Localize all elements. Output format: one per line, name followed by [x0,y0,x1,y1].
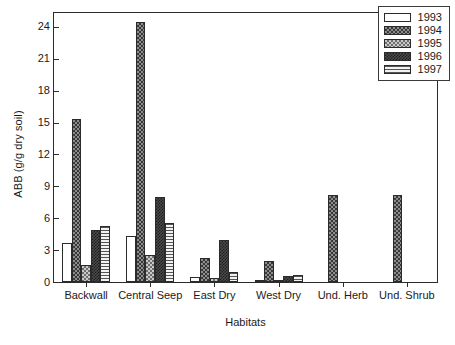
x-axis-tick-label: East Dry [193,289,235,301]
bar-und-shrub-1994 [393,195,403,282]
legend-swatch-1994 [384,26,411,35]
bar-central-seep-1995 [145,255,155,282]
bar-east-dry-1994 [200,258,210,282]
x-axis-tick-label: Central Seep [118,289,182,301]
y-axis-tick-mark [54,123,59,124]
bar-und-herb-1994 [328,195,338,282]
x-axis-tick-mark [343,282,344,287]
y-axis-tick-mark [54,27,59,28]
legend-item-1996: 1996 [384,50,442,63]
legend-swatch-1996 [384,52,411,61]
y-axis-tick-label: 9 [44,181,54,192]
legend-swatch-1993 [384,13,411,22]
legend-label-1995: 1995 [418,38,442,49]
bar-chart-figure: ABB (g/g dry soil) 03691215182124 Backwa… [0,0,455,345]
bar-west-dry-1996 [283,276,293,282]
bar-west-dry-1993 [255,280,265,282]
legend-label-1994: 1994 [418,25,442,36]
x-axis-tick-mark [86,282,87,287]
bar-west-dry-1995 [274,280,284,282]
bar-central-seep-1997 [165,223,175,283]
legend-item-1994: 1994 [384,24,442,37]
y-axis-title: ABB (g/g dry soil) [12,44,24,264]
y-axis-tick-label: 6 [44,213,54,224]
y-axis-tick-mark [54,218,59,219]
bar-central-seep-1996 [155,197,165,282]
legend-label-1996: 1996 [418,51,442,62]
legend-item-1993: 1993 [384,11,442,24]
bar-west-dry-1997 [293,275,303,282]
bar-west-dry-1994 [264,261,274,282]
legend-swatch-1995 [384,39,411,48]
legend-label-1997: 1997 [418,64,442,75]
y-axis-tick-label: 0 [44,277,54,288]
y-axis-tick-label: 12 [38,149,54,160]
legend-swatch-1997 [384,65,411,74]
y-axis-tick-label: 21 [38,53,54,64]
x-axis-tick-label: Und. Shrub [379,289,435,301]
y-axis-tick-mark [54,59,59,60]
bar-backwall-1996 [91,230,101,282]
bar-backwall-1994 [72,119,82,282]
legend-item-1995: 1995 [384,37,442,50]
x-axis-tick-label: Und. Herb [318,289,368,301]
y-axis-tick-mark [54,186,59,187]
y-axis-tick-mark [54,250,59,251]
bar-east-dry-1995 [210,278,220,282]
legend-label-1993: 1993 [418,12,442,23]
y-axis-tick-mark [54,91,59,92]
x-axis-title: Habitats [53,316,438,328]
y-axis-tick-mark [54,282,59,283]
bar-backwall-1993 [62,243,72,282]
chart-legend: 19931994199519961997 [378,6,450,81]
bar-east-dry-1996 [219,240,229,283]
y-axis-tick-label: 15 [38,117,54,128]
x-axis-tick-mark [407,282,408,287]
x-axis-tick-mark [150,282,151,287]
x-axis-tick-label: Backwall [64,289,107,301]
x-axis-tick-label: West Dry [256,289,301,301]
legend-item-1997: 1997 [384,63,442,76]
bar-central-seep-1993 [126,236,136,282]
bar-backwall-1995 [81,265,91,282]
x-axis-tick-mark [279,282,280,287]
y-axis-tick-label: 3 [44,245,54,256]
y-axis-tick-label: 18 [38,85,54,96]
bar-east-dry-1993 [190,277,200,282]
bar-backwall-1997 [100,226,110,282]
x-axis-tick-mark [214,282,215,287]
bar-central-seep-1994 [136,22,146,282]
bar-east-dry-1997 [229,272,239,282]
y-axis-tick-label: 24 [38,21,54,32]
y-axis-tick-mark [54,154,59,155]
